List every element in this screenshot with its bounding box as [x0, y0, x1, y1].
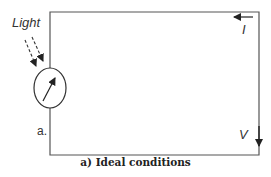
voltage-label: V: [239, 127, 249, 142]
current-label: I: [242, 22, 246, 37]
light-label: Light: [12, 15, 42, 30]
figure-caption: a) Ideal conditions: [0, 156, 271, 168]
circuit-diagram: Light I V a. a) Ideal conditions: [0, 0, 271, 177]
meter-icon: [34, 68, 66, 108]
light-rays-icon: [25, 37, 43, 66]
node-a-label: a.: [37, 124, 47, 138]
circuit-wire: [50, 12, 259, 155]
